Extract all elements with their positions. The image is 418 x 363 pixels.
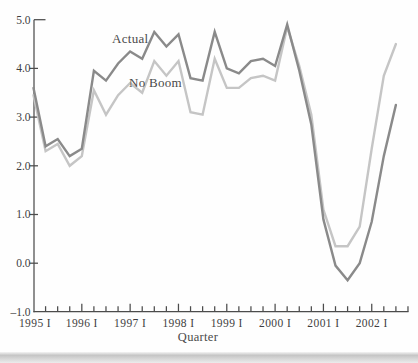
y-tick-label: 0.0: [16, 257, 31, 269]
y-tick-label: 4.0: [16, 62, 31, 74]
x-tick-label: 1996 I: [66, 317, 98, 329]
series-label-actual: Actual: [112, 31, 148, 47]
x-tick-label: 2000 I: [259, 317, 291, 329]
x-tick-label: 2001 I: [307, 317, 339, 329]
y-tick-label: –1.0: [9, 306, 30, 318]
y-tick-label: 3.0: [16, 111, 31, 123]
x-tick-label: 1997 I: [114, 317, 146, 329]
line-chart-canvas: 5.04.03.02.01.00.0–1.01995 I1996 I1997 I…: [0, 0, 418, 363]
page-edge-band: [0, 352, 418, 363]
y-tick-label: 2.0: [16, 160, 31, 172]
x-tick-label: 1995 I: [19, 317, 51, 329]
series-label-no-boom: No Boom: [129, 75, 182, 91]
figure: 5.04.03.02.01.00.0–1.01995 I1996 I1997 I…: [0, 0, 418, 363]
x-axis-title: Quarter: [158, 330, 238, 345]
series-line-no-boom: [34, 27, 396, 246]
x-tick-label: 1999 I: [211, 317, 243, 329]
x-tick-label: 2002 I: [356, 317, 388, 329]
y-tick-label: 1.0: [16, 208, 31, 220]
y-tick-label: 5.0: [16, 14, 31, 26]
x-tick-label: 1998 I: [162, 317, 194, 329]
